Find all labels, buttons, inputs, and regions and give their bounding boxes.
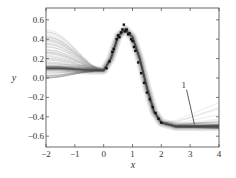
annotation-leader-line bbox=[187, 90, 195, 125]
x-tick-label: 0 bbox=[101, 149, 106, 159]
y-axis-label: y bbox=[11, 72, 17, 83]
x-tick-label: 3 bbox=[188, 149, 193, 159]
y-tick-label: 0.4 bbox=[33, 34, 45, 44]
x-axis-label: x bbox=[130, 159, 136, 170]
x-tick-label: −2 bbox=[41, 149, 51, 159]
y-tick-label: 0.2 bbox=[33, 54, 44, 64]
x-tick-label: 4 bbox=[217, 149, 222, 159]
x-tick-label: 2 bbox=[159, 149, 164, 159]
chart: −2−101234 0.60.40.20.0−0.2−0.4−0.6 x y 1 bbox=[0, 0, 236, 178]
mean-band bbox=[46, 30, 219, 127]
y-tick-label: −0.2 bbox=[28, 92, 44, 102]
y-tick-label: 0.6 bbox=[33, 15, 45, 25]
x-tick-label: 1 bbox=[130, 149, 135, 159]
annotation-label: 1 bbox=[182, 80, 187, 90]
y-tick-label: −0.6 bbox=[28, 131, 45, 141]
y-tick-label: −0.4 bbox=[28, 112, 45, 122]
x-tick-label: −1 bbox=[70, 149, 80, 159]
y-tick-label: 0.0 bbox=[33, 73, 45, 83]
